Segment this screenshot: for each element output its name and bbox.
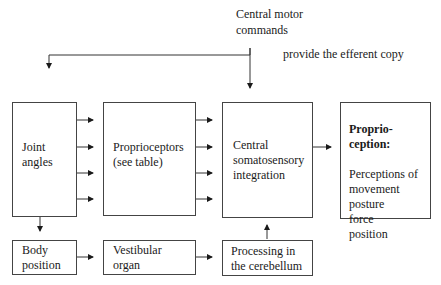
proprioception-title: Proprio- ception: bbox=[349, 122, 418, 152]
proprioceptors-label: Proprioceptors (see table) bbox=[113, 140, 184, 170]
cerebellum-box: Processing in the cerebellum bbox=[222, 240, 313, 276]
body-position-box: Body position bbox=[12, 240, 77, 275]
proprioceptors-box: Proprioceptors (see table) bbox=[103, 102, 196, 216]
body-position-label: Body position bbox=[22, 243, 61, 273]
proprioception-label: Proprio- ception: Perceptions of movemen… bbox=[349, 107, 418, 242]
vestibular-organ-box: Vestibular organ bbox=[103, 240, 196, 275]
joint-angles-label: Joint angles bbox=[22, 140, 53, 170]
central-integration-label: Central somatosensory integration bbox=[233, 138, 304, 183]
proprioception-body: Perceptions of movement posture force po… bbox=[349, 167, 418, 241]
joint-angles-box: Joint angles bbox=[12, 102, 77, 217]
cerebellum-label: Processing in the cerebellum bbox=[231, 244, 302, 274]
central-integration-box: Central somatosensory integration bbox=[222, 102, 313, 218]
arrow-motor-to-joint-angles bbox=[49, 48, 250, 68]
vestibular-organ-label: Vestibular organ bbox=[113, 243, 162, 273]
proprioception-box: Proprio- ception: Perceptions of movemen… bbox=[340, 102, 431, 219]
